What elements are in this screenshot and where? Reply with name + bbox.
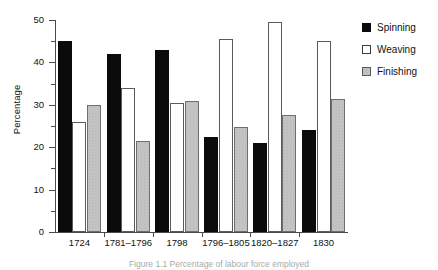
bar-weaving-2 xyxy=(170,103,184,232)
white-outlined-square-icon xyxy=(362,45,371,54)
legend-item-finishing: Finishing xyxy=(362,66,417,77)
y-tick-label: 0 xyxy=(22,227,44,236)
bar-finishing-3 xyxy=(234,127,248,232)
bar-finishing-4 xyxy=(282,115,296,232)
gray-stippled-square-icon xyxy=(362,67,371,76)
bar-weaving-5 xyxy=(317,41,331,232)
legend-label: Finishing xyxy=(377,66,417,77)
bar-weaving-1 xyxy=(121,88,135,232)
bar-finishing-1 xyxy=(136,141,150,232)
bar-spinning-4 xyxy=(253,143,267,232)
y-tick-label: 30 xyxy=(22,100,44,109)
y-tick-label: 50 xyxy=(22,15,44,24)
x-axis-label-4: 1820–1827 xyxy=(250,237,299,248)
x-axis-label-3: 1796–1805 xyxy=(202,237,251,248)
y-tick-label: 40 xyxy=(22,57,44,66)
bar-spinning-0 xyxy=(58,41,72,232)
y-tick-major xyxy=(49,232,55,233)
x-axis-label-0: 1724 xyxy=(55,237,104,248)
bar-spinning-2 xyxy=(155,50,169,232)
y-tick-label: 20 xyxy=(22,142,44,151)
bar-weaving-0 xyxy=(72,122,86,232)
bar-finishing-0 xyxy=(87,105,101,232)
legend-item-spinning: Spinning xyxy=(362,22,417,33)
legend-label: Weaving xyxy=(377,44,416,55)
bar-spinning-3 xyxy=(204,137,218,232)
bar-spinning-1 xyxy=(107,54,121,232)
bar-finishing-5 xyxy=(331,99,345,232)
legend-label: Spinning xyxy=(377,22,416,33)
black-filled-square-icon xyxy=(362,23,371,32)
bar-finishing-2 xyxy=(185,101,199,232)
x-axis-label-1: 1781–1796 xyxy=(104,237,153,248)
legend-item-weaving: Weaving xyxy=(362,44,417,55)
bar-series-area xyxy=(55,20,348,232)
bar-spinning-5 xyxy=(302,130,316,232)
y-tick-label: 10 xyxy=(22,185,44,194)
x-axis-label-5: 1830 xyxy=(299,237,348,248)
bar-weaving-3 xyxy=(219,39,233,232)
bar-weaving-4 xyxy=(268,22,282,232)
x-axis-label-2: 1798 xyxy=(153,237,202,248)
y-axis-label: Percentage xyxy=(11,55,22,165)
figure-container: Percentage 01020304050 17241781–17961798… xyxy=(0,0,438,270)
chart-legend: SpinningWeavingFinishing xyxy=(362,22,417,88)
figure-caption: Figure 1.1 Percentage of labour force em… xyxy=(0,259,438,269)
